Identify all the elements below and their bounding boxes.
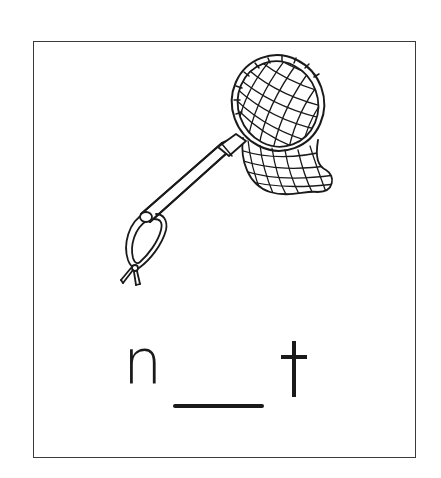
first-letter: n (123, 332, 162, 394)
last-letter-t-stem (292, 341, 296, 397)
last-letter-t-crossbar (281, 355, 307, 359)
word-prompt: n (0, 0, 441, 478)
missing-letters-blank[interactable] (173, 404, 264, 408)
last-letter (280, 341, 308, 397)
